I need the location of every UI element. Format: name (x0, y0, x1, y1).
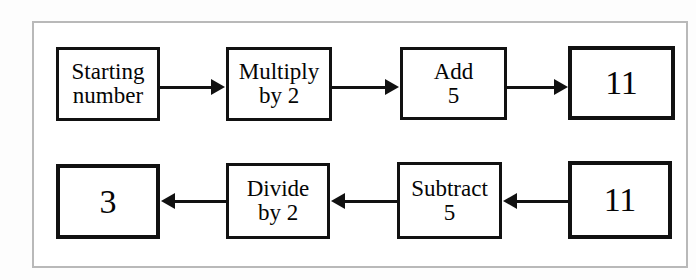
diagram-canvas: Starting number Multiply by 2 Add 5 11 3… (0, 0, 696, 280)
node-subtract-5[interactable]: Subtract 5 (397, 162, 502, 239)
node-line: Add (434, 60, 474, 84)
node-line: Multiply (239, 60, 320, 84)
connector-divide-to-result3 (172, 200, 226, 203)
node-line: 11 (604, 182, 637, 217)
arrowhead-right-icon (554, 79, 568, 95)
connector-subtract-to-divide (342, 200, 397, 203)
arrowhead-right-icon (385, 79, 399, 95)
diagram-frame: Starting number Multiply by 2 Add 5 11 3… (32, 21, 688, 268)
node-result-3[interactable]: 3 (56, 164, 160, 239)
node-line: Subtract (411, 177, 488, 201)
connector-multiply-to-add (332, 86, 386, 89)
node-line: 5 (444, 201, 456, 225)
node-line: number (73, 84, 143, 108)
node-input-11-bottom[interactable]: 11 (568, 161, 672, 239)
node-line: Divide (247, 177, 310, 201)
arrowhead-right-icon (211, 79, 225, 95)
node-line: 11 (605, 65, 638, 100)
node-line: 3 (100, 184, 117, 219)
node-line: by 2 (259, 84, 299, 108)
node-starting-number[interactable]: Starting number (56, 47, 160, 121)
node-add-5[interactable]: Add 5 (400, 47, 507, 120)
node-line: by 2 (258, 201, 298, 225)
node-line: Starting (72, 60, 145, 84)
node-line: 5 (448, 84, 460, 108)
connector-starting-to-multiply (160, 86, 212, 89)
node-result-11-top[interactable]: 11 (568, 46, 675, 120)
node-divide-by-2[interactable]: Divide by 2 (226, 163, 330, 239)
connector-input11-to-subtract (514, 200, 568, 203)
node-multiply-by-2[interactable]: Multiply by 2 (226, 47, 332, 121)
